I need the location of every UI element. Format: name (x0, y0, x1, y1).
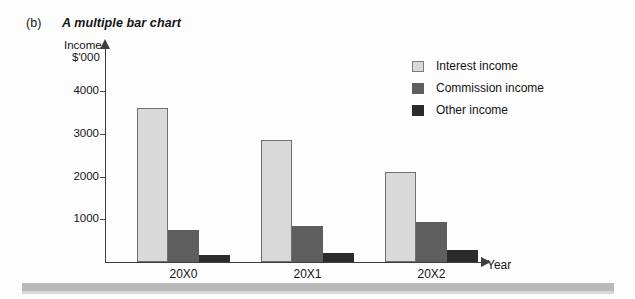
y-tick-mark (100, 177, 106, 178)
y-axis-title-line1: Income (64, 39, 102, 51)
x-axis-line (105, 262, 483, 263)
y-tick-mark (100, 91, 106, 92)
legend-item: Interest income (412, 55, 544, 77)
bar-20x0-commission-income (168, 230, 199, 262)
x-tick-label-20x0: 20X0 (149, 267, 219, 281)
chart-legend: Interest incomeCommission incomeOther in… (412, 55, 544, 121)
y-tick-label: 4000 (55, 84, 99, 96)
bar-20x2-commission-income (416, 222, 447, 262)
legend-label: Other income (436, 103, 508, 117)
bar-chart-plot: Income $'000 Year 1000200030004000 20X02… (0, 0, 635, 299)
y-tick-label: 2000 (55, 170, 99, 182)
page-edge-band (22, 283, 614, 291)
y-axis-line (105, 48, 106, 263)
legend-item: Other income (412, 99, 544, 121)
x-axis-arrow-icon (481, 257, 491, 267)
y-axis-title-line2: $'000 (72, 51, 100, 63)
bar-20x2-interest-income (385, 172, 416, 262)
x-tick-label-20x2: 20X2 (397, 267, 467, 281)
y-tick-label: 1000 (55, 212, 99, 224)
legend-swatch-icon (412, 83, 424, 94)
y-axis-arrow-icon (100, 39, 110, 49)
bar-20x1-other-income (323, 253, 354, 262)
legend-label: Commission income (436, 81, 544, 95)
legend-swatch-icon (412, 61, 424, 72)
bar-20x1-interest-income (261, 140, 292, 262)
legend-label: Interest income (436, 59, 518, 73)
bar-20x0-interest-income (137, 108, 168, 262)
bar-20x1-commission-income (292, 226, 323, 262)
bar-20x0-other-income (199, 255, 230, 262)
y-tick-label: 3000 (55, 127, 99, 139)
x-tick-label-20x1: 20X1 (273, 267, 343, 281)
page-edge-band-shadow (22, 291, 614, 294)
y-tick-mark (100, 134, 106, 135)
legend-swatch-icon (412, 105, 424, 116)
bar-20x2-other-income (447, 250, 478, 262)
y-tick-mark (100, 219, 106, 220)
figure-page: (b) A multiple bar chart Income $'000 Ye… (0, 0, 635, 299)
legend-item: Commission income (412, 77, 544, 99)
